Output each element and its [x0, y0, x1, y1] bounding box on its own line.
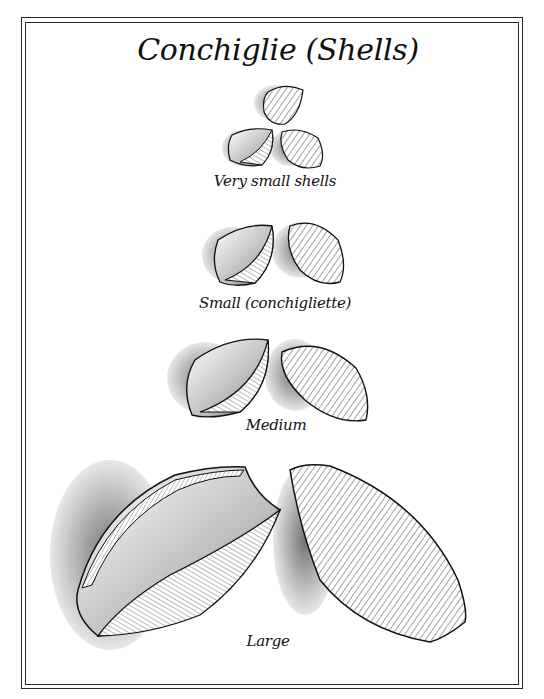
large-shell-back — [273, 465, 466, 642]
small-shell-open — [202, 225, 273, 285]
small-shells-group — [202, 222, 344, 285]
medium-shell-back — [265, 339, 368, 421]
very-small-shell-open — [222, 129, 273, 166]
label-medium-shells: Medium — [246, 416, 307, 434]
medium-shell-open — [167, 339, 268, 417]
large-shells-group — [50, 460, 466, 650]
medium-shells-group — [167, 339, 368, 421]
shell-illustrations — [0, 0, 544, 699]
very-small-shell-back — [270, 130, 323, 168]
label-small-shells: Small (conchigliette) — [199, 294, 351, 312]
very-small-shell-top — [254, 85, 303, 124]
small-shell-back — [272, 222, 344, 284]
very-small-shells-group — [222, 85, 323, 168]
label-large-shells: Large — [246, 632, 289, 650]
label-very-small-shells: Very small shells — [214, 172, 336, 190]
large-shell-open — [50, 460, 280, 650]
